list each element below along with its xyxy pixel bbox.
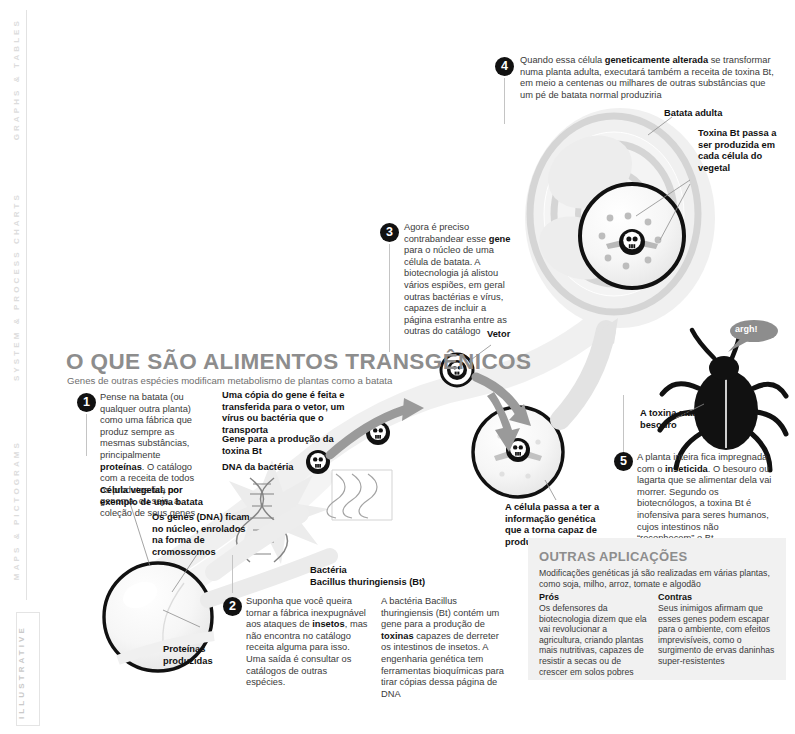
step-number-5: 5 bbox=[614, 452, 633, 471]
page-title: O QUE SÃO ALIMENTOS TRANSGÊNICOS bbox=[66, 349, 531, 375]
applications-description: Modificações genéticas já são realizadas… bbox=[539, 568, 783, 589]
step-5-text: A planta inteira fica impregnada com o i… bbox=[637, 452, 777, 545]
step-number-4: 4 bbox=[495, 57, 514, 76]
cons-heading: Contras bbox=[658, 592, 692, 602]
dna-page-graphic bbox=[327, 470, 392, 520]
adult-plant-cell-closeup bbox=[580, 184, 684, 288]
label-genes-dna: Os genes (DNA) ficam no núcleo, enrolado… bbox=[152, 512, 252, 558]
step-1-connector bbox=[86, 414, 87, 456]
step-2-connector bbox=[232, 555, 233, 593]
label-bacteria-name-line2: Bacillus thuringiensis (Bt) bbox=[310, 577, 460, 589]
label-dna-bacteria: DNA da bactéria bbox=[222, 462, 302, 474]
label-proteins-produced: Proteínas produzidas bbox=[163, 644, 233, 667]
bt-description-text: A bactéria Bacillus thuringiensis (Bt) c… bbox=[381, 596, 509, 700]
step-number-3: 3 bbox=[380, 223, 399, 242]
step-number-1: 1 bbox=[77, 393, 96, 412]
step-4-text: Quando essa célula geneticamente alterad… bbox=[520, 55, 775, 101]
step-3-text: Agora é preciso contrabandear esse gene … bbox=[404, 222, 512, 338]
label-toxin-kills-beetle: A toxina mata o besouro bbox=[640, 408, 730, 431]
step-3-connector bbox=[389, 244, 390, 352]
step-4-connector bbox=[504, 78, 505, 124]
label-plant-cell: Célula vegetal, por exemplo de uma batat… bbox=[100, 485, 215, 508]
step-number-2: 2 bbox=[223, 597, 242, 616]
pros-heading: Prós bbox=[539, 592, 559, 602]
step-2-text: Suponha que você queira tornar a fábrica… bbox=[246, 596, 368, 689]
label-adult-potato: Batata adulta bbox=[664, 108, 722, 120]
label-bacteria-name-line1: Bactéria bbox=[310, 565, 450, 577]
page-subtitle: Genes de outras espécies modificam metab… bbox=[67, 375, 392, 386]
label-copy-gene: Uma cópia do gene é feita e transferida … bbox=[222, 390, 364, 436]
beetle-graphic bbox=[660, 328, 786, 470]
label-bt-toxin-each-cell: Toxina Bt passa a ser produzida em cada … bbox=[698, 128, 786, 174]
pros-text: Os defensores da biotecnologia dizem que… bbox=[539, 603, 649, 677]
label-vector: Vetor bbox=[487, 329, 510, 341]
label-gene-bt: Gene para a produção da toxina Bt bbox=[222, 434, 342, 457]
cons-text: Seus inimigos afirmam que esses genes po… bbox=[658, 603, 778, 667]
step-5-connector bbox=[623, 395, 624, 452]
beetle-scream-label: argh! bbox=[735, 324, 758, 334]
applications-title: OUTRAS APLICAÇÕES bbox=[539, 549, 687, 564]
